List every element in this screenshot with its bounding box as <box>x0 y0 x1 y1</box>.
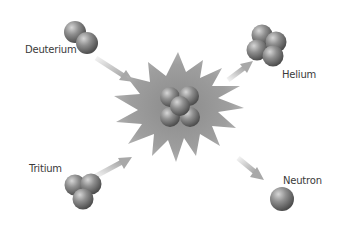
label-deuterium: Deuterium <box>25 44 76 55</box>
neutron-particle-icon <box>270 187 294 211</box>
arrow-core-to-neutron <box>238 158 264 180</box>
helium-nucleus-icon <box>247 25 287 67</box>
label-neutron: Neutron <box>283 175 322 186</box>
diagram-canvas <box>0 0 341 234</box>
label-tritium: Tritium <box>29 163 62 174</box>
arrow-core-to-helium <box>228 61 253 80</box>
fusion-diagram: Deuterium Tritium Helium Neutron <box>0 0 341 234</box>
label-helium: Helium <box>282 69 316 80</box>
tritium-nucleus-icon <box>65 174 102 210</box>
arrow-tritium-to-core <box>96 157 132 176</box>
